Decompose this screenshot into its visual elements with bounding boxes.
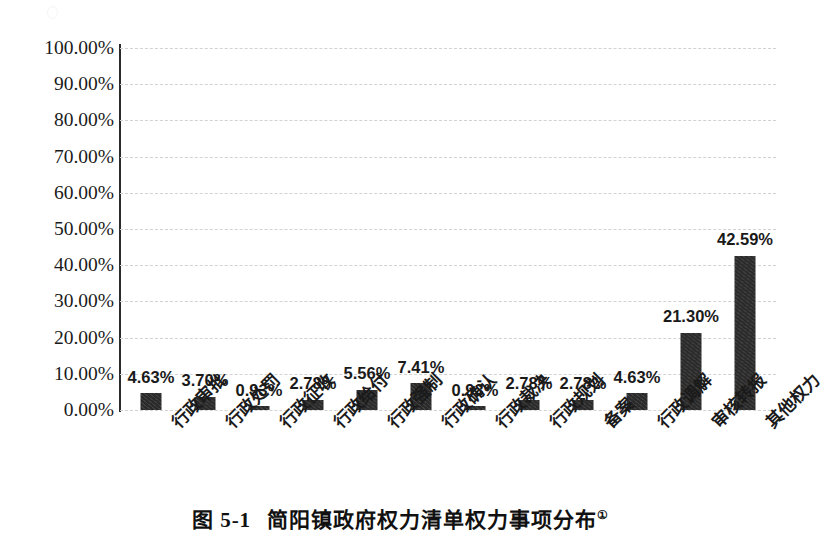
plot-area: 4.63%3.70%0.93%2.78%5.56%7.41%0.93%2.78%…: [120, 48, 776, 410]
x-axis-category-label: 行政给付: [327, 415, 345, 433]
figure-caption: 图 5-1简阳镇政府权力清单权力事项分布①: [0, 503, 801, 533]
y-axis-tick-label: 10.00%: [2, 364, 114, 384]
bar-value-label: 21.30%: [663, 308, 719, 325]
y-axis-tick-label: 90.00%: [2, 74, 114, 94]
x-axis-category-label: 行政处罚: [219, 415, 237, 433]
x-axis-category-label: 行政强制: [381, 415, 399, 433]
y-axis-tick-label: 60.00%: [2, 183, 114, 203]
bar-slot: 3.70%: [178, 48, 232, 410]
bar-slot: 2.78%: [502, 48, 556, 410]
bar-value-label: 7.41%: [398, 359, 445, 376]
caption-footnote-marker: ①: [597, 508, 609, 522]
x-axis-category-label: 其他权力: [759, 415, 777, 433]
y-axis-tick-label: 100.00%: [2, 38, 114, 58]
y-axis-tick-label: 20.00%: [2, 328, 114, 348]
x-axis-category-label: 行政裁决: [489, 415, 507, 433]
y-axis-tick-label: 30.00%: [2, 291, 114, 311]
y-axis-tick-label: 80.00%: [2, 110, 114, 130]
y-axis-tick-label: 0.00%: [2, 400, 114, 420]
bar-value-label: 4.63%: [128, 369, 175, 386]
x-axis-category-label: 行政征收: [273, 415, 291, 433]
bar-slot: 4.63%: [610, 48, 664, 410]
bar-slot: 7.41%: [394, 48, 448, 410]
x-axis-category-label: 行政确认: [435, 415, 453, 433]
bar-slot: 21.30%: [664, 48, 718, 410]
y-axis-tick-label: 50.00%: [2, 219, 114, 239]
bar-slot: 2.78%: [286, 48, 340, 410]
bar-slot: 4.63%: [124, 48, 178, 410]
x-axis-category-label: 行政规划: [543, 415, 561, 433]
x-axis-category-label: 行政审批: [165, 415, 183, 433]
caption-number: 图 5-1: [192, 508, 251, 532]
bar-slot: 0.93%: [448, 48, 502, 410]
caption-text: 简阳镇政府权力清单权力事项分布: [267, 508, 597, 532]
bar-slot: 42.59%: [718, 48, 772, 410]
bar-value-label: 4.63%: [614, 369, 661, 386]
x-axis-category-label: 备案: [597, 415, 615, 433]
x-axis-category-label: 审核转报: [705, 415, 723, 433]
bar-slot: 0.93%: [232, 48, 286, 410]
y-axis-tick-labels: 100.00%90.00%80.00%70.00%60.00%50.00%40.…: [0, 0, 114, 526]
bar-value-label: 42.59%: [717, 231, 773, 248]
bar-slot: 5.56%: [340, 48, 394, 410]
y-axis-tick-label: 70.00%: [2, 147, 114, 167]
y-axis-tick-label: 40.00%: [2, 255, 114, 275]
x-axis-category-label: 行政调解: [651, 415, 669, 433]
bar-slot: 2.78%: [556, 48, 610, 410]
bar: [141, 393, 162, 410]
